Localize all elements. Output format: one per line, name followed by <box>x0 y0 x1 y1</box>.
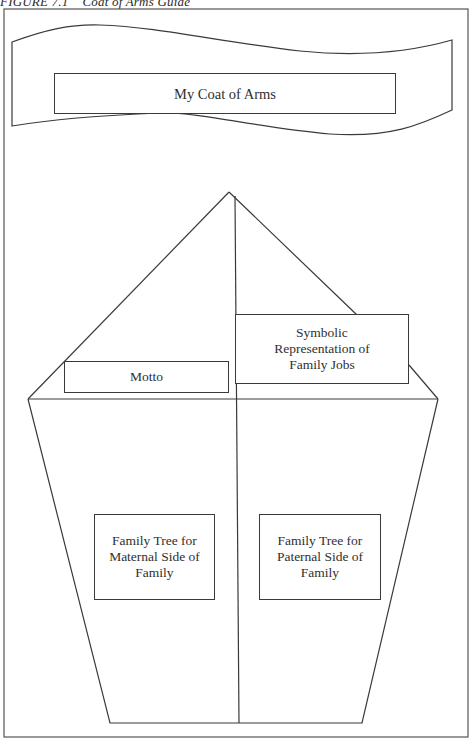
paternal-family-tree-box: Family Tree for Paternal Side of Family <box>259 514 381 600</box>
shield-center-divider <box>235 196 239 723</box>
family-jobs-box: Symbolic Representation of Family Jobs <box>235 314 409 384</box>
coat-of-arms-title-box: My Coat of Arms <box>54 73 396 114</box>
motto-box: Motto <box>64 361 229 393</box>
maternal-family-tree-box: Family Tree for Maternal Side of Family <box>94 514 215 600</box>
